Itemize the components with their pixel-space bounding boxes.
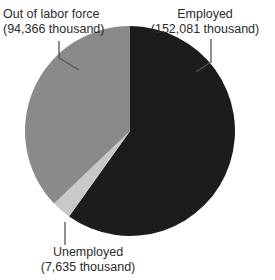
- slice-label-employed-name: Employed: [138, 7, 272, 22]
- slice-label-out-of-labor-force: Out of labor force (94,366 thousand): [3, 7, 104, 37]
- slice-label-unemployed: Unemployed (7,635 thousand): [0, 245, 176, 275]
- pie-chart-figure: Out of labor force (94,366 thousand) Emp…: [0, 0, 275, 280]
- slice-label-out-of-labor-force-value: (94,366 thousand): [3, 22, 104, 37]
- slice-label-employed: Employed (152,081 thousand): [138, 7, 272, 37]
- slice-label-unemployed-value: (7,635 thousand): [0, 260, 176, 275]
- slice-label-out-of-labor-force-name: Out of labor force: [3, 7, 104, 22]
- slice-label-unemployed-name: Unemployed: [0, 245, 176, 260]
- slice-label-employed-value: (152,081 thousand): [138, 22, 272, 37]
- pie-chart-graphic: [0, 0, 275, 280]
